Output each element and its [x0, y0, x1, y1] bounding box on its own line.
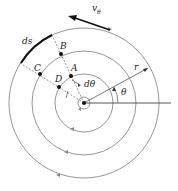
r-label: r [134, 63, 138, 72]
point-a [69, 74, 73, 78]
ds-label: ds [22, 37, 32, 46]
point-b [59, 52, 63, 56]
dtheta-arrow-icon [78, 84, 81, 87]
dtheta-arc [72, 80, 79, 84]
velocity-label: vθ [92, 4, 101, 15]
dtheta-label: dθ [84, 80, 95, 89]
label-a: A [71, 64, 78, 73]
point-d [57, 85, 61, 89]
radius-arrow-icon [143, 68, 148, 72]
center-point [82, 101, 86, 105]
diagram-canvas [0, 0, 178, 191]
theta-label: θ [121, 88, 126, 97]
label-d: D [55, 75, 62, 84]
d-marker [66, 91, 68, 98]
label-c: C [34, 64, 41, 73]
velocity-arrow-icon [68, 15, 77, 21]
label-b: B [60, 42, 67, 51]
arrow-icon [64, 150, 68, 154]
arrow-icon [70, 127, 74, 131]
